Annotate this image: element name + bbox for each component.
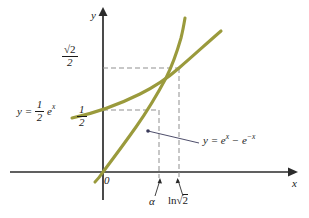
origin-label: 0 bbox=[104, 175, 110, 186]
ln-operator: ln bbox=[168, 194, 177, 206]
curve-sinh bbox=[95, 18, 185, 182]
y-tick-sqrt2-denominator: 2 bbox=[62, 57, 78, 69]
curve-label-half-exponential: y = 1 2 ex bbox=[17, 99, 55, 123]
x-axis-label: x bbox=[292, 178, 297, 189]
y-tick-half-denominator: 2 bbox=[77, 117, 87, 129]
sinh-exponent-2: −x bbox=[247, 132, 255, 141]
y-tick-sqrt2-over-2: √2 2 bbox=[62, 44, 78, 68]
half-exp-lhs: y = bbox=[17, 106, 32, 117]
y-axis-label: y bbox=[91, 10, 96, 21]
y-tick-sqrt2-numerator: √2 bbox=[62, 44, 78, 57]
tick-pointer-alpha bbox=[155, 178, 162, 196]
sinh-minus-term: − e bbox=[232, 134, 247, 146]
sinh-lhs: y = e bbox=[203, 134, 226, 146]
leader-line-sinh-label bbox=[146, 129, 199, 143]
math-graph-figure: y x 0 √2 2 1 2 y = 1 2 ex y = ex − e−x α… bbox=[0, 0, 309, 218]
x-tick-ln-sqrt2: ln√2 bbox=[168, 194, 188, 206]
sinh-exponent-1: x bbox=[226, 132, 229, 141]
half-exp-frac-denominator: 2 bbox=[35, 112, 45, 124]
half-exp-frac-numerator: 1 bbox=[35, 99, 45, 112]
sqrt-radicand: 2 bbox=[183, 194, 189, 206]
x-axis bbox=[10, 168, 298, 177]
y-tick-one-half: 1 2 bbox=[77, 104, 87, 128]
curve-label-sinh: y = ex − e−x bbox=[203, 133, 255, 146]
x-tick-alpha: α bbox=[149, 196, 155, 207]
curve-half-exponential bbox=[72, 31, 221, 118]
half-exp-exponent: x bbox=[52, 102, 55, 111]
y-tick-half-numerator: 1 bbox=[77, 104, 87, 117]
